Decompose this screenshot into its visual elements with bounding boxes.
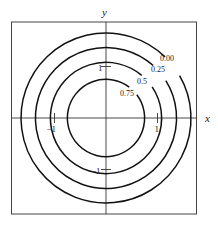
contour-plot: 0.000.250.50.75 −111−1 x y xyxy=(0,0,218,227)
y-tick-label: 1 xyxy=(98,63,103,73)
contour-label: 0.25 xyxy=(151,65,165,74)
contour-label: 0.75 xyxy=(120,89,134,98)
x-tick-label: −1 xyxy=(47,124,57,134)
x-axis-label: x xyxy=(204,112,210,124)
contour-label: 0.00 xyxy=(160,54,174,63)
contour-label: 0.5 xyxy=(137,77,147,86)
y-tick-label: −1 xyxy=(91,166,101,176)
y-axis-label: y xyxy=(101,6,107,18)
x-tick-label: 1 xyxy=(155,124,160,134)
